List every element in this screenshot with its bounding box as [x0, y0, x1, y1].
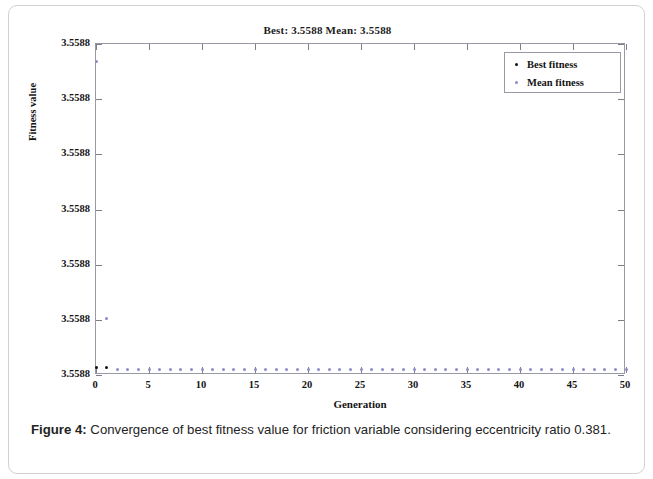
y-tick-label: 3.5588	[42, 147, 90, 158]
data-point	[519, 368, 522, 371]
figure-caption-label: Figure 4:	[31, 422, 87, 437]
data-point	[455, 368, 458, 371]
data-point	[158, 368, 161, 371]
data-point	[190, 368, 193, 371]
data-point	[116, 368, 119, 371]
data-point	[137, 368, 140, 371]
data-point	[593, 368, 596, 371]
data-point	[201, 368, 204, 371]
y-tick-mark	[618, 265, 624, 266]
figure-caption-text: Convergence of best fitness value for fr…	[87, 422, 611, 437]
data-point	[529, 368, 532, 371]
y-tick-mark	[96, 154, 102, 155]
data-point	[550, 368, 553, 371]
data-point	[222, 368, 225, 371]
data-point	[487, 368, 490, 371]
data-point	[423, 368, 426, 371]
data-point	[169, 368, 172, 371]
data-point	[285, 368, 288, 371]
data-point	[307, 368, 310, 371]
data-point	[444, 368, 447, 371]
y-tick-mark	[618, 320, 624, 321]
x-tick-mark	[361, 44, 362, 50]
data-point	[381, 368, 384, 371]
legend-label-best-fitness: Best fitness	[527, 59, 577, 70]
x-tick-label: 10	[186, 379, 216, 390]
data-point	[561, 368, 564, 371]
figure-caption: Figure 4: Convergence of best fitness va…	[31, 420, 623, 439]
data-point	[95, 366, 98, 369]
data-point	[148, 368, 151, 371]
data-point	[349, 368, 352, 371]
y-tick-mark	[96, 210, 102, 211]
data-point	[243, 368, 246, 371]
x-tick-label: 20	[292, 379, 322, 390]
chart-legend: Best fitness Mean fitness	[504, 52, 621, 93]
data-point	[296, 368, 299, 371]
data-point	[402, 368, 405, 371]
x-tick-mark	[414, 44, 415, 50]
y-tick-label: 3.5588	[42, 258, 90, 269]
data-point	[105, 317, 108, 320]
y-tick-mark	[618, 44, 624, 45]
data-point	[540, 368, 543, 371]
x-tick-label: 0	[80, 379, 110, 390]
x-tick-mark	[573, 44, 574, 50]
x-tick-mark	[467, 44, 468, 50]
x-axis-label: Generation	[95, 398, 625, 410]
data-point	[179, 368, 182, 371]
figure-card: Best: 3.5588 Mean: 3.5588 Fitness value …	[8, 5, 645, 474]
data-point	[328, 368, 331, 371]
x-tick-mark	[520, 44, 521, 50]
data-point	[466, 368, 469, 371]
y-tick-mark	[96, 99, 102, 100]
data-point	[603, 368, 606, 371]
y-tick-mark	[618, 154, 624, 155]
x-tick-mark	[149, 44, 150, 50]
legend-label-mean-fitness: Mean fitness	[527, 77, 584, 88]
y-tick-mark	[96, 375, 102, 376]
y-axis-label: Fitness value	[27, 83, 38, 141]
y-tick-mark	[618, 210, 624, 211]
data-point	[391, 368, 394, 371]
data-point	[254, 368, 257, 371]
data-point	[625, 368, 628, 371]
y-tick-label: 3.5588	[42, 368, 90, 379]
data-point	[105, 366, 108, 369]
legend-marker-best-fitness-icon	[505, 63, 527, 66]
x-tick-label: 30	[398, 379, 428, 390]
y-tick-mark	[618, 375, 624, 376]
data-point	[434, 368, 437, 371]
y-tick-mark	[96, 265, 102, 266]
y-tick-label: 3.5588	[42, 92, 90, 103]
x-tick-mark	[96, 44, 97, 50]
data-point	[338, 368, 341, 371]
data-point	[126, 368, 129, 371]
data-point	[95, 60, 98, 63]
data-point	[497, 368, 500, 371]
data-point	[370, 368, 373, 371]
legend-item-mean-fitness: Mean fitness	[505, 73, 622, 91]
y-tick-label: 3.5588	[42, 313, 90, 324]
legend-marker-mean-fitness-icon	[505, 81, 527, 84]
data-point	[476, 368, 479, 371]
x-tick-label: 35	[451, 379, 481, 390]
y-tick-mark	[96, 320, 102, 321]
data-point	[317, 368, 320, 371]
legend-item-best-fitness: Best fitness	[505, 55, 622, 73]
chart-title: Best: 3.5588 Mean: 3.5588	[9, 24, 646, 36]
x-tick-mark	[202, 44, 203, 50]
data-point	[582, 368, 585, 371]
y-tick-label: 3.5588	[42, 37, 90, 48]
x-tick-mark	[626, 44, 627, 50]
x-tick-mark	[255, 44, 256, 50]
data-point	[572, 368, 575, 371]
data-point	[614, 368, 617, 371]
x-tick-label: 15	[239, 379, 269, 390]
data-point	[264, 368, 267, 371]
chart-plot-area: Best: 3.5588 Mean: 3.5588 Fitness value …	[9, 6, 646, 411]
x-tick-mark	[308, 44, 309, 50]
data-point	[211, 368, 214, 371]
data-point	[275, 368, 278, 371]
y-tick-mark	[618, 99, 624, 100]
